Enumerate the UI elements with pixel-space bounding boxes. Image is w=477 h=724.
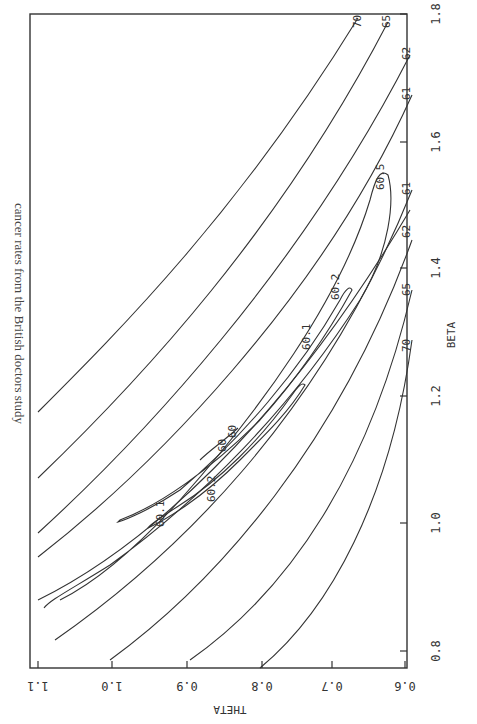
svg-text:60.2: 60.2 (205, 476, 218, 503)
svg-text:1.0: 1.0 (101, 679, 123, 693)
svg-text:61: 61 (400, 182, 413, 195)
svg-text:65: 65 (380, 15, 393, 28)
plot-frame (30, 14, 407, 668)
svg-text:60.5: 60.5 (374, 164, 387, 191)
svg-text:60: 60 (216, 439, 229, 452)
svg-text:0.6: 0.6 (394, 679, 416, 693)
svg-text:62: 62 (400, 47, 413, 60)
svg-text:THETA: THETA (213, 703, 246, 716)
theta-ticks (38, 661, 405, 668)
svg-text:0.8: 0.8 (429, 640, 443, 662)
svg-text:1.0: 1.0 (429, 512, 443, 534)
svg-text:60.1: 60.1 (154, 501, 167, 528)
svg-text:65: 65 (400, 283, 413, 296)
svg-text:70: 70 (351, 15, 364, 28)
svg-text:1.4: 1.4 (429, 257, 443, 279)
svg-text:BETA: BETA (445, 321, 458, 348)
svg-text:60: 60 (226, 425, 239, 438)
svg-text:1.8: 1.8 (429, 3, 443, 25)
beta-tick-labels: 0.8 1.0 1.2 1.4 1.6 1.8 BETA (429, 3, 458, 662)
svg-text:0.9: 0.9 (176, 679, 198, 693)
contour-plot: 0.8 1.0 1.2 1.4 1.6 1.8 BETA 1.1 1.0 0.9… (0, 0, 477, 724)
svg-text:60.1: 60.1 (300, 324, 313, 351)
contour-lines (38, 18, 412, 668)
svg-text:1.1: 1.1 (27, 679, 49, 693)
contour-labels: 70 65 62 61 60.5 61 62 65 70 60.2 60.1 6… (154, 15, 413, 527)
svg-text:61: 61 (400, 87, 413, 100)
svg-text:1.2: 1.2 (429, 385, 443, 407)
svg-text:60.2: 60.2 (329, 274, 342, 301)
svg-text:0.8: 0.8 (251, 679, 273, 693)
svg-text:70: 70 (400, 339, 413, 352)
svg-text:1.6: 1.6 (429, 131, 443, 153)
svg-text:0.7: 0.7 (321, 679, 343, 693)
theta-tick-labels: 1.1 1.0 0.9 0.8 0.7 0.6 THETA (27, 679, 416, 716)
svg-text:62: 62 (400, 225, 413, 238)
